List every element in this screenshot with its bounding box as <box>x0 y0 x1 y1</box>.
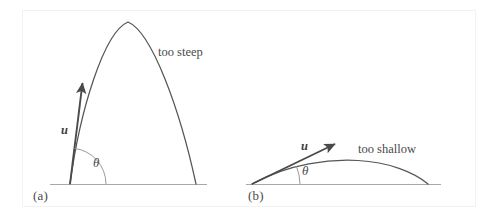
panel-a-label: (a) <box>33 188 48 204</box>
panel-b-velocity-arrow <box>252 144 335 184</box>
panel-a-vector-label: u <box>61 123 68 138</box>
panel-b-caption: too shallow <box>358 142 416 157</box>
panel-b-vector-label: u <box>301 139 308 154</box>
panel-b-angle-arc <box>297 167 301 185</box>
panel-a-angle-label: θ <box>93 155 99 171</box>
panel-b-angle-label: θ <box>302 163 308 179</box>
panel-a-caption: too steep <box>158 45 203 60</box>
figure-container: too steep u θ (a) too shallow u θ (b) <box>0 0 497 221</box>
panel-b-label: (b) <box>248 188 264 204</box>
panel-a-angle-arc <box>75 148 106 184</box>
panel-a-velocity-arrow <box>70 83 83 184</box>
